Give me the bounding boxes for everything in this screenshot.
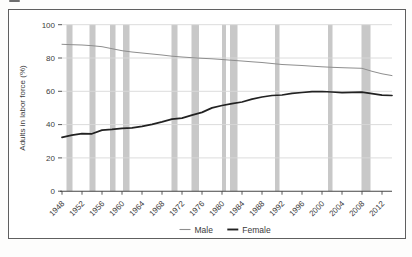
legend-label-female: Female <box>242 225 271 235</box>
y-tick-label: 100 <box>42 21 56 30</box>
recession-band <box>172 25 178 192</box>
y-tick-label: 20 <box>46 154 55 163</box>
recession-band <box>328 25 333 192</box>
y-tick-label: 60 <box>46 87 55 96</box>
scan-artifact <box>9 0 20 2</box>
y-tick-label: 40 <box>46 120 55 129</box>
recession-band <box>362 25 371 192</box>
legend-label-male: Male <box>195 225 214 235</box>
figure-page: 0204060801001948195219561960196419681972… <box>0 0 412 257</box>
recession-band <box>275 25 280 192</box>
y-tick-label: 0 <box>51 187 56 196</box>
y-axis-label: Adults in labor force (%) <box>18 65 27 151</box>
recession-band <box>90 25 96 192</box>
recession-band <box>192 25 200 192</box>
recession-band <box>230 25 238 192</box>
recession-band <box>67 25 73 192</box>
y-tick-label: 80 <box>46 54 55 63</box>
recession-band <box>123 25 130 192</box>
recession-band <box>222 25 226 192</box>
labor-force-chart: 0204060801001948195219561960196419681972… <box>0 0 412 257</box>
